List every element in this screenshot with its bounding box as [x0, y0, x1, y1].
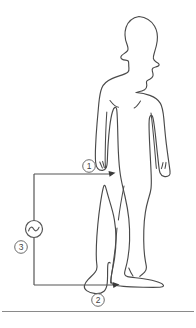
ac-voltage-source[interactable]	[26, 221, 43, 238]
callout-marker-2[interactable]: 2	[92, 294, 105, 307]
arrowhead-hand	[109, 171, 116, 177]
diagram-canvas: 1 2 3	[0, 0, 196, 328]
human-body-silhouette	[84, 17, 170, 294]
callout-marker-1[interactable]: 1	[83, 160, 96, 173]
callout-2-label: 2	[96, 295, 101, 305]
callout-marker-3[interactable]: 3	[15, 241, 28, 254]
callout-1-label: 1	[87, 161, 92, 171]
callout-3-label: 3	[19, 242, 24, 252]
figure-root: 1 2 3	[0, 0, 196, 328]
ankle-crease-right	[129, 268, 133, 276]
body-outline-path	[84, 17, 170, 294]
